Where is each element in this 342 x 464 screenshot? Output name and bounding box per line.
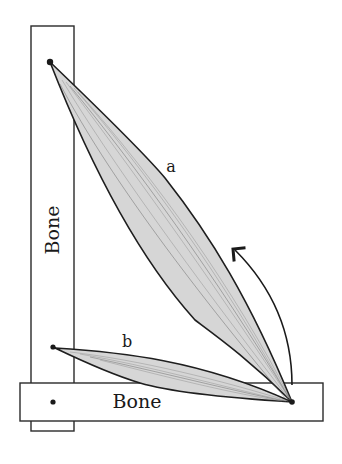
horizontal-bone-label: Bone xyxy=(113,390,162,412)
muscle-b-origin-dot xyxy=(50,344,55,349)
pivot-dot xyxy=(50,399,55,404)
insertion-point xyxy=(289,399,295,405)
muscle-a-label: a xyxy=(166,157,176,176)
vertical-bone-label: Bone xyxy=(41,206,63,255)
muscle-a-origin-dot xyxy=(47,59,53,65)
muscle-lever-diagram: Bone Bone b a xyxy=(0,0,342,464)
muscle-b-label: b xyxy=(122,332,132,351)
